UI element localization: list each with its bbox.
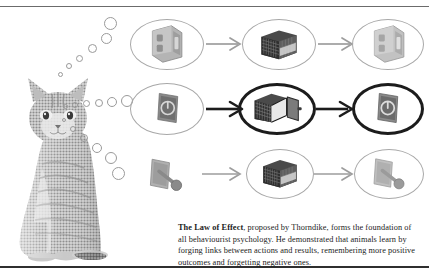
- open-cage-icon: [244, 87, 314, 129]
- thought-bubble: [83, 100, 90, 107]
- thought-bubble: [76, 55, 83, 62]
- lever-switch-icon: [140, 150, 192, 198]
- arrow-thin-gray: [200, 164, 248, 184]
- switch-plate-icon: [364, 22, 416, 66]
- row-forgotten-step-3: [350, 16, 428, 74]
- closed-cage-icon: [254, 154, 306, 192]
- top-divider: [0, 6, 429, 7]
- row-forgotten-step-2: [240, 16, 318, 74]
- power-button-icon: [144, 85, 190, 131]
- figure-canvas: The Law of Effect, proposed by Thorndike…: [0, 0, 429, 276]
- arrow-icon: [200, 164, 248, 184]
- thought-bubble: [92, 143, 102, 153]
- row-remembered-step-3: [350, 80, 428, 138]
- thought-bubble: [95, 99, 103, 107]
- lever-switch-icon: [364, 150, 414, 196]
- thought-bubble: [107, 97, 117, 107]
- thought-bubble: [72, 102, 78, 108]
- row-lever-step-1: [134, 148, 204, 202]
- caption-title: The Law of Effect: [178, 223, 243, 232]
- thought-bubble: [112, 167, 125, 180]
- thought-bubble: [80, 134, 88, 142]
- thought-bubble: [63, 104, 68, 109]
- cat-icon: [8, 72, 120, 262]
- thought-bubble: [101, 33, 112, 44]
- row-remembered-step-2: [236, 80, 320, 138]
- figure-caption: The Law of Effect, proposed by Thorndike…: [178, 222, 422, 268]
- thought-bubble: [105, 152, 117, 164]
- thought-bubble: [58, 72, 63, 77]
- thought-bubble: [62, 118, 66, 122]
- thought-bubble: [104, 17, 117, 30]
- row-forgotten-step-1: [128, 16, 206, 74]
- power-button-icon: [364, 85, 410, 131]
- row-lever-step-3: [352, 146, 428, 202]
- switch-plate-icon: [142, 22, 194, 66]
- row-lever-step-2: [244, 146, 316, 202]
- closed-cage-icon: [252, 24, 306, 64]
- cat-illustration: [8, 72, 120, 262]
- thought-bubble: [88, 44, 97, 53]
- row-remembered-step-1: [128, 80, 206, 138]
- thought-bubble: [70, 126, 76, 132]
- thought-bubble: [66, 63, 72, 69]
